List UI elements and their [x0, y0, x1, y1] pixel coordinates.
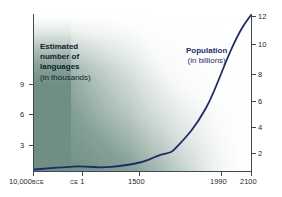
y-right-tick-4 [251, 127, 256, 128]
y-right-tick-2 [251, 153, 256, 154]
y-left-tick-3 [29, 145, 34, 146]
y-right-tick-12 [251, 16, 256, 17]
x-label-10000bce: 10,000BCE [9, 177, 44, 186]
languages-label-unit: (in thousands) [40, 73, 91, 83]
y-right-label-6: 6 [258, 97, 262, 106]
y-right-label-10: 10 [258, 40, 266, 49]
x-label-ce1: CE 1 [70, 177, 84, 186]
y-axis-left-line [33, 14, 34, 172]
population-label-line1: Population [186, 46, 227, 56]
x-label-1500: 1500 [128, 177, 145, 186]
y-right-label-8: 8 [258, 70, 262, 79]
languages-label-line1: Estimated [40, 42, 91, 52]
population-series-label: Population (in billions) [186, 46, 227, 66]
x-label-2100: 2100 [240, 177, 257, 186]
y-axis-right-line [251, 14, 252, 172]
y-right-tick-10 [251, 44, 256, 45]
x-tick-2100 [251, 172, 252, 176]
languages-label-line2: number of [40, 52, 91, 62]
y-left-tick-6 [29, 114, 34, 115]
x-tick-10000bce [33, 172, 34, 176]
population-label-unit: (in billions) [186, 56, 227, 66]
languages-label-line3: languages [40, 62, 91, 72]
plot-area [33, 14, 251, 172]
y-left-label-3: 3 [20, 141, 24, 150]
languages-series-label: Estimated number of languages (in thousa… [40, 42, 91, 83]
x-label-ce-value: 1 [80, 177, 84, 186]
x-label-10000bce-value: 10,000 [9, 177, 32, 186]
x-tick-ce1 [82, 172, 83, 176]
x-label-ce-era: CE [70, 179, 78, 185]
population-line-svg [33, 14, 251, 172]
x-tick-1990 [221, 172, 222, 176]
y-left-tick-9 [29, 84, 34, 85]
y-right-label-2: 2 [258, 149, 262, 158]
y-right-label-12: 12 [258, 12, 266, 21]
x-axis-line [33, 171, 252, 172]
x-label-1990: 1990 [210, 177, 227, 186]
y-right-label-4: 4 [258, 123, 262, 132]
y-left-label-6: 6 [20, 110, 24, 119]
chart-figure: 10,000BCE CE 1 1500 1990 2100 3 6 9 2 4 … [0, 0, 282, 197]
population-curve [33, 15, 251, 170]
x-tick-1500 [139, 172, 140, 176]
y-right-tick-6 [251, 101, 256, 102]
y-right-tick-8 [251, 74, 256, 75]
x-label-10000bce-era: BCE [32, 179, 44, 185]
y-left-label-9: 9 [20, 80, 24, 89]
